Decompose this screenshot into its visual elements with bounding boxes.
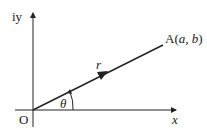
point-a-label: A(a, b) — [165, 32, 203, 45]
point-prefix: A( — [165, 31, 179, 46]
direction-arrow-icon — [97, 71, 108, 80]
angle-label: θ — [60, 97, 66, 110]
vector-r — [33, 45, 163, 110]
y-axis-label: iy — [12, 10, 22, 23]
x-axis-label: x — [172, 113, 178, 126]
vector-label: r — [96, 58, 101, 71]
angle-arc — [70, 92, 73, 110]
point-suffix: ) — [198, 31, 202, 46]
origin-label: O — [19, 113, 28, 126]
